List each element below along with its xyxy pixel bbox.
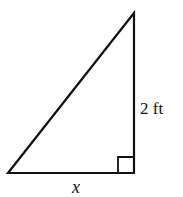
right-triangle-diagram: 2 ft x — [0, 0, 183, 197]
vertical-side-label: 2 ft — [140, 99, 163, 118]
right-angle-marker — [118, 157, 134, 173]
triangle — [8, 13, 134, 173]
horizontal-side-label: x — [71, 177, 80, 197]
